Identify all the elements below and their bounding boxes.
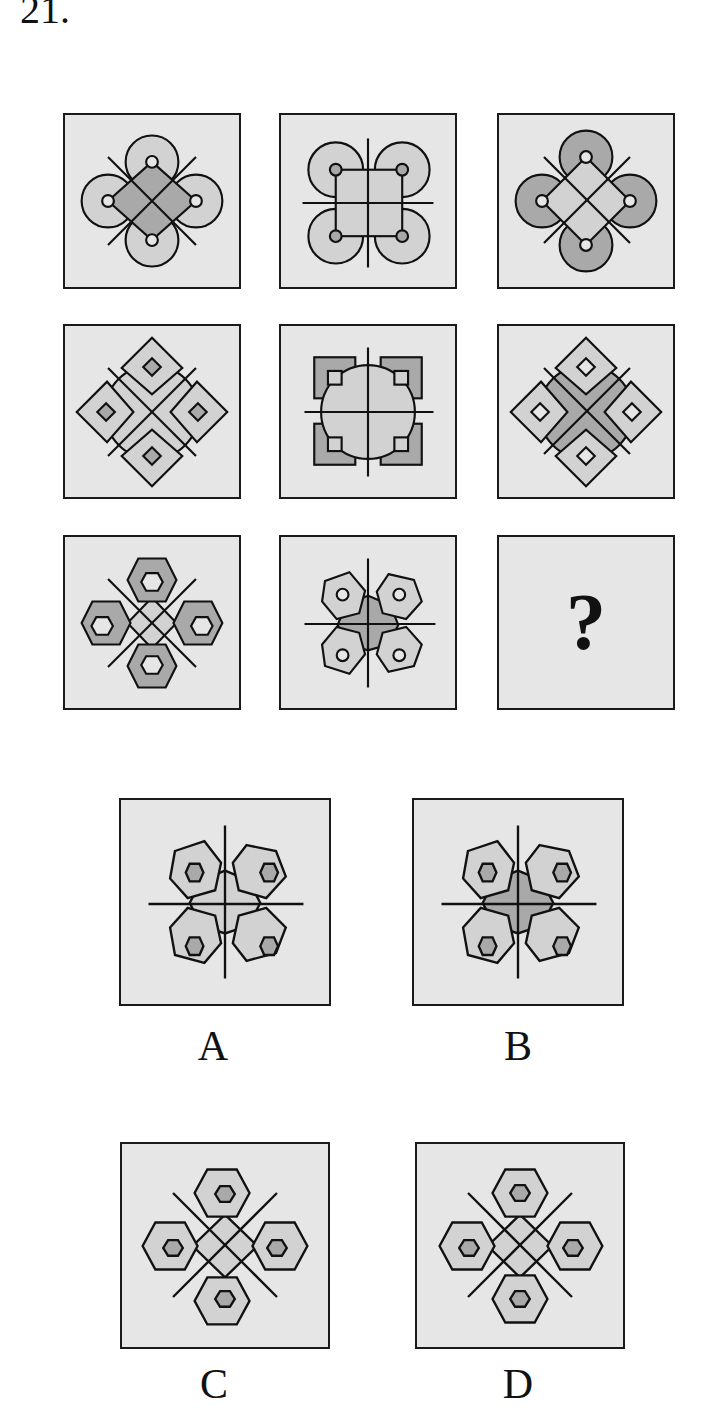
matrix-cell-r1c2	[279, 113, 457, 289]
diamonds-diagonal-dark-figure-icon	[499, 326, 673, 497]
matrix-cell-r3c1	[63, 535, 241, 710]
hexagons-diagonal-light-alt-icon	[417, 1144, 623, 1347]
matrix-cell-r2c1	[63, 324, 241, 499]
matrix-cell-r2c2	[279, 324, 457, 499]
hexagons-orthogonal-light-center-icon	[121, 800, 329, 1004]
matrix-cell-r3c3-missing: ?	[497, 535, 675, 710]
hexagons-orthogonal-dark-center-icon	[414, 800, 622, 1004]
circles-orthogonal-figure-icon	[281, 115, 455, 287]
circles-diagonal-figure-icon	[65, 115, 239, 287]
option-d-label[interactable]: D	[478, 1360, 558, 1408]
matrix-cell-r2c3	[497, 324, 675, 499]
diamonds-diagonal-figure-icon	[65, 326, 239, 497]
option-a-label[interactable]: A	[173, 1022, 253, 1070]
circles-diagonal-dark-figure-icon	[499, 115, 673, 287]
option-b-label[interactable]: B	[478, 1022, 558, 1070]
hexagons-orthogonal-figure-icon	[281, 537, 455, 708]
matrix-cell-r1c1	[63, 113, 241, 289]
option-b-figure[interactable]	[412, 798, 624, 1006]
question-number: 21.	[20, 0, 70, 33]
squares-orthogonal-figure-icon	[281, 326, 455, 497]
hexagons-diagonal-figure-icon	[65, 537, 239, 708]
option-a-figure[interactable]	[119, 798, 331, 1006]
question-mark: ?	[499, 537, 673, 708]
option-c-figure[interactable]	[120, 1142, 330, 1349]
option-d-figure[interactable]	[415, 1142, 625, 1349]
matrix-cell-r3c2	[279, 535, 457, 710]
hexagons-diagonal-light-icon	[122, 1144, 328, 1347]
matrix-cell-r1c3	[497, 113, 675, 289]
option-c-label[interactable]: C	[174, 1360, 254, 1408]
